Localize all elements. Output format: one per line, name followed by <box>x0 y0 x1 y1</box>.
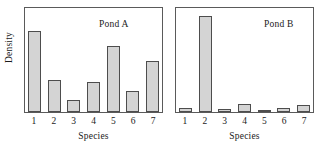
tick-label-pond-b-3: 3 <box>215 115 235 128</box>
tick-label-pond-a-4: 4 <box>84 115 104 128</box>
tick-label-pond-a-5: 5 <box>103 115 123 128</box>
bar-pond-a-species-1 <box>28 31 41 112</box>
bar-slot <box>142 8 162 112</box>
panel-title-pond-b: Pond B <box>264 19 293 30</box>
bar-slot <box>176 8 196 112</box>
bar-pond-b-species-5 <box>258 110 271 112</box>
bar-slot <box>235 8 255 112</box>
bar-pond-a-species-2 <box>48 80 61 112</box>
x-axis-title-species-pond-b: Species <box>175 130 314 142</box>
bar-slot <box>196 8 216 112</box>
bar-pond-b-species-7 <box>297 105 310 112</box>
tick-label-pond-a-6: 6 <box>123 115 143 128</box>
bar-slot <box>25 8 45 112</box>
bar-pond-b-species-2 <box>199 16 212 112</box>
chart-panel-pond-b: Pond B 1234567 Species <box>166 0 324 153</box>
bar-pond-b-species-3 <box>218 109 231 112</box>
bar-pond-a-species-3 <box>67 100 80 112</box>
x-axis-tick-labels-pond-a: 1234567 <box>24 115 163 128</box>
bar-slot <box>64 8 84 112</box>
tick-label-pond-b-1: 1 <box>175 115 195 128</box>
bar-slot <box>45 8 65 112</box>
y-axis-title-density: Density <box>4 20 15 76</box>
bar-pond-a-species-5 <box>107 46 120 112</box>
tick-label-pond-a-3: 3 <box>64 115 84 128</box>
chart-panel-pond-a: Density Pond A 1234567 Species <box>0 0 166 153</box>
bar-slot <box>215 8 235 112</box>
panel-title-pond-a: Pond A <box>99 19 128 30</box>
tick-label-pond-a-2: 2 <box>44 115 64 128</box>
x-axis-tick-labels-pond-b: 1234567 <box>175 115 314 128</box>
plot-frame-pond-b: Pond B <box>175 7 314 113</box>
bar-pond-a-species-7 <box>146 61 159 112</box>
bar-pond-a-species-4 <box>87 82 100 112</box>
tick-label-pond-b-5: 5 <box>254 115 274 128</box>
plot-frame-pond-a: Pond A <box>24 7 163 113</box>
tick-label-pond-b-6: 6 <box>274 115 294 128</box>
tick-label-pond-a-7: 7 <box>143 115 163 128</box>
tick-label-pond-a-1: 1 <box>24 115 44 128</box>
figure-panel-pair: Density Pond A 1234567 Species Pond B 12… <box>0 0 324 153</box>
bar-slot <box>293 8 313 112</box>
x-axis-title-species-pond-a: Species <box>24 130 163 142</box>
bar-pond-b-species-4 <box>238 104 251 112</box>
tick-label-pond-b-7: 7 <box>294 115 314 128</box>
bar-pond-b-species-6 <box>277 108 290 112</box>
tick-label-pond-b-4: 4 <box>235 115 255 128</box>
bar-series-pond-a <box>25 8 162 112</box>
bar-pond-b-species-1 <box>179 108 192 112</box>
tick-label-pond-b-2: 2 <box>195 115 215 128</box>
bar-pond-a-species-6 <box>126 91 139 112</box>
